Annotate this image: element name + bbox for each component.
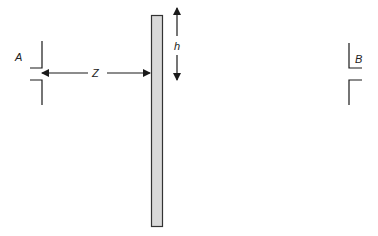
- aperture-a-upper-jaw: [30, 41, 42, 68]
- diagram-canvas: A Z h B: [0, 0, 378, 236]
- aperture-b-lower-jaw: [349, 80, 362, 105]
- height-h-label: h: [174, 40, 180, 52]
- aperture-b-label: B: [355, 53, 362, 65]
- distance-z-label: Z: [91, 67, 100, 79]
- aperture-a-label: A: [14, 51, 22, 63]
- aperture-a: [30, 41, 42, 105]
- aperture-a-lower-jaw: [30, 80, 42, 105]
- obstacle-bar: [152, 16, 163, 227]
